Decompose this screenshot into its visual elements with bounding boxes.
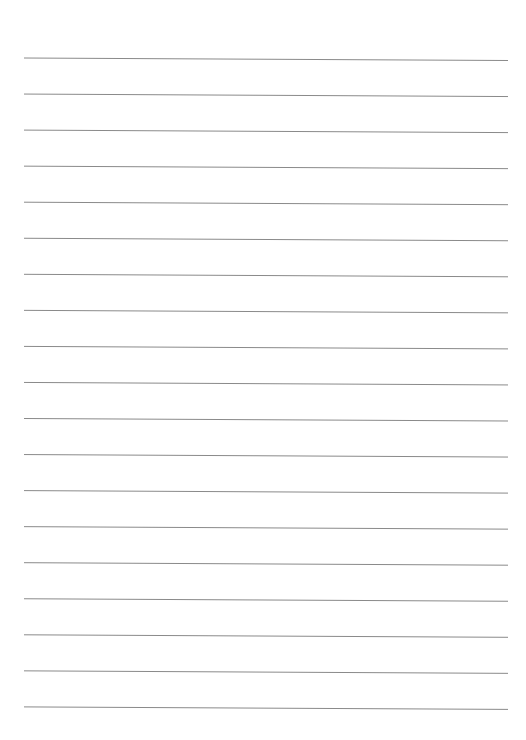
- ruled-line: [24, 346, 508, 349]
- ruled-line: [24, 563, 508, 566]
- ruled-line: [24, 671, 508, 674]
- ruled-line: [24, 455, 508, 458]
- ruled-line: [24, 58, 508, 61]
- ruled-line: [24, 419, 508, 422]
- ruled-line: [24, 527, 508, 530]
- ruled-line: [24, 94, 508, 97]
- ruled-line: [24, 635, 508, 638]
- ruled-line: [24, 130, 508, 133]
- ruled-lines: [0, 0, 526, 740]
- ruled-line: [24, 238, 508, 241]
- ruled-line: [24, 707, 508, 710]
- ruled-line: [24, 491, 508, 494]
- ruled-line: [24, 599, 508, 602]
- ruled-line: [24, 166, 508, 169]
- lined-paper-page: [0, 0, 526, 740]
- ruled-line: [24, 274, 508, 277]
- ruled-line: [24, 310, 508, 313]
- ruled-line: [24, 202, 508, 205]
- ruled-line: [24, 382, 508, 385]
